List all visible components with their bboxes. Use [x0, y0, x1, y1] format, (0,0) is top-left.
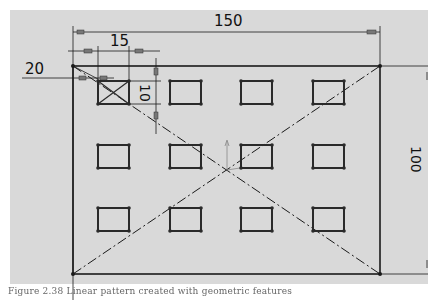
plate-vertex-tr — [378, 64, 382, 68]
dim-150-arrow-left — [77, 30, 84, 34]
dim-20-arrow-2 — [100, 76, 107, 80]
plate-vertex-bl — [71, 272, 75, 276]
sketch-drawing: 150 15 20 10 100 — [0, 0, 439, 300]
plate-vertex-br — [378, 272, 382, 276]
plate-vertex-tl — [71, 64, 75, 68]
dim-20-arrow-1 — [79, 76, 86, 80]
dim-15-arrow-right — [135, 49, 143, 53]
dim-10-label[interactable]: 10 — [137, 84, 153, 102]
dim-150-arrow-right — [367, 30, 376, 34]
dim-10-arrow-bottom — [154, 112, 158, 119]
figure-caption: Figure 2.38 Linear pattern created with … — [8, 286, 292, 296]
dim-10-arrow-top — [154, 68, 158, 75]
dim-20-label[interactable]: 20 — [25, 60, 44, 78]
dim-100-label[interactable]: 100 — [408, 146, 424, 173]
dim-15-label[interactable]: 15 — [110, 32, 129, 50]
dim-15-arrow-left — [84, 49, 92, 53]
dim-150-label[interactable]: 150 — [214, 12, 243, 30]
